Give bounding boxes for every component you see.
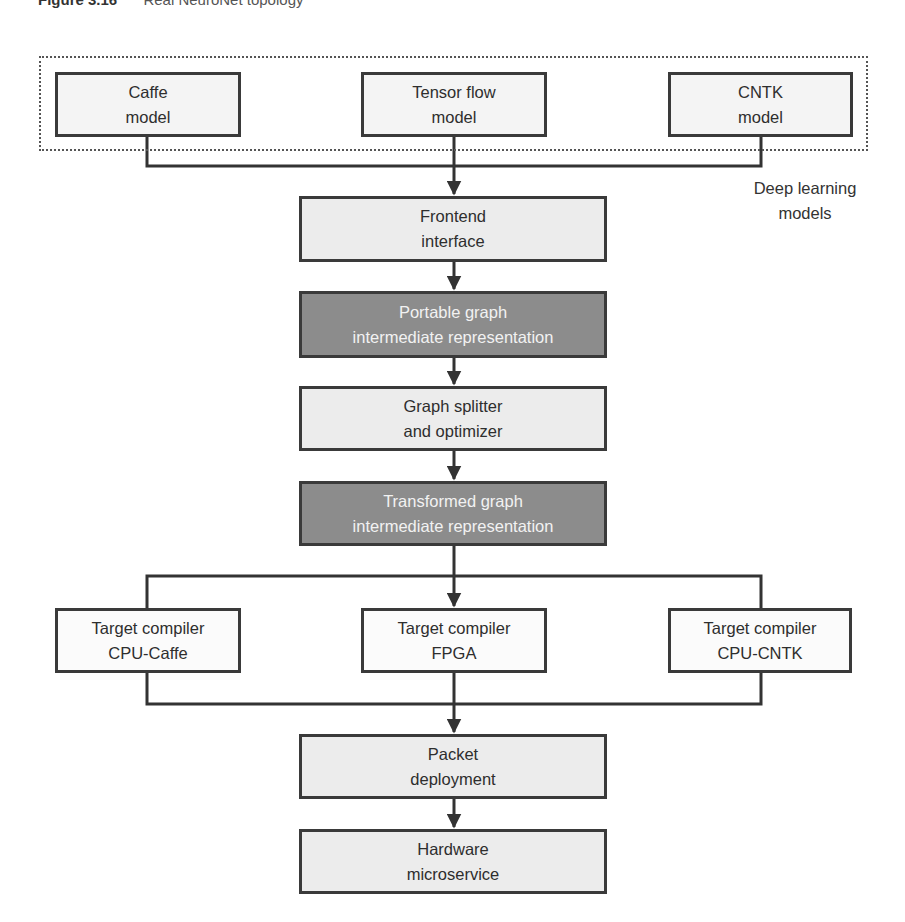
compiler-caffe-line2: CPU-Caffe bbox=[108, 641, 187, 666]
cntk-model-line1: CNTK bbox=[738, 80, 783, 105]
compiler-cntk-line1: Target compiler bbox=[704, 616, 817, 641]
transformed-line1: Transformed graph bbox=[383, 489, 523, 514]
compiler-fpga-line2: FPGA bbox=[432, 641, 477, 666]
compiler-cntk-line2: CPU-CNTK bbox=[717, 641, 802, 666]
packet-deployment-box: Packet deployment bbox=[299, 734, 607, 799]
caffe-model-line1: Caffe bbox=[128, 80, 167, 105]
compiler-caffe-line1: Target compiler bbox=[92, 616, 205, 641]
cntk-model-line2: model bbox=[738, 105, 783, 130]
tensorflow-model-box: Tensor flow model bbox=[361, 72, 547, 137]
caffe-model-box: Caffe model bbox=[55, 72, 241, 137]
packet-line1: Packet bbox=[428, 742, 478, 767]
splitter-line2: and optimizer bbox=[403, 419, 502, 444]
packet-line2: deployment bbox=[410, 767, 495, 792]
graph-splitter-box: Graph splitter and optimizer bbox=[299, 386, 607, 451]
hardware-microservice-box: Hardware microservice bbox=[299, 829, 607, 894]
frontend-line1: Frontend bbox=[420, 204, 486, 229]
compiler-fpga-line1: Target compiler bbox=[398, 616, 511, 641]
transformed-graph-ir-box: Transformed graph intermediate represent… bbox=[299, 481, 607, 546]
frontend-line2: interface bbox=[421, 229, 484, 254]
hardware-line1: Hardware bbox=[417, 837, 489, 862]
compiler-fpga-box: Target compiler FPGA bbox=[361, 608, 547, 673]
portable-graph-ir-box: Portable graph intermediate representati… bbox=[299, 291, 607, 358]
splitter-line1: Graph splitter bbox=[403, 394, 502, 419]
portable-line1: Portable graph bbox=[399, 300, 507, 325]
transformed-line2: intermediate representation bbox=[353, 514, 554, 539]
tensorflow-model-line2: model bbox=[432, 105, 477, 130]
deep-learning-models-label: Deep learning models bbox=[725, 176, 885, 226]
frontend-interface-box: Frontend interface bbox=[299, 196, 607, 262]
compiler-cpu-caffe-box: Target compiler CPU-Caffe bbox=[55, 608, 241, 673]
compiler-cpu-cntk-box: Target compiler CPU-CNTK bbox=[668, 608, 852, 673]
caffe-model-line2: model bbox=[126, 105, 171, 130]
portable-line2: intermediate representation bbox=[353, 325, 554, 350]
group-label-line1: Deep learning bbox=[725, 176, 885, 201]
hardware-line2: microservice bbox=[407, 862, 500, 887]
cntk-model-box: CNTK model bbox=[668, 72, 853, 137]
group-label-line2: models bbox=[725, 201, 885, 226]
tensorflow-model-line1: Tensor flow bbox=[412, 80, 495, 105]
